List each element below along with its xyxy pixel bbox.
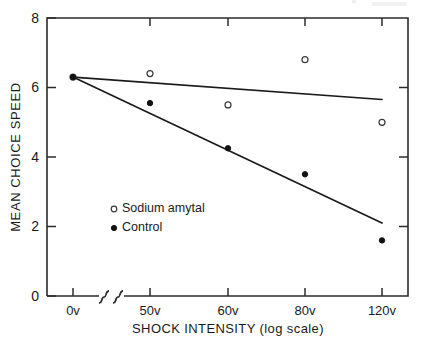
- data-point-sodium-amytal-80v: [302, 57, 308, 63]
- legend-label-control: Control: [122, 220, 162, 234]
- x-tick-label-60v: 60v: [218, 303, 239, 318]
- y-axis-title: MEAN CHOICE SPEED: [8, 82, 23, 232]
- chart-figure: 8 6 4 2 0 0v 50v 60v 80v 120v SHOCK INTE: [0, 0, 421, 348]
- legend-marker-sodium-amytal: [111, 206, 117, 212]
- data-point-control-120v: [379, 238, 384, 243]
- data-point-control-0v: [70, 74, 75, 79]
- x-tick-label-50v: 50v: [140, 303, 161, 318]
- scan-artifact: [372, 2, 406, 6]
- y-tick-label-8: 8: [31, 10, 39, 26]
- data-point-sodium-amytal-120v: [379, 119, 385, 125]
- y-tick-label-6: 6: [31, 79, 39, 95]
- y-tick-label-2: 2: [31, 218, 39, 234]
- x-tick-label-120v: 120v: [368, 303, 397, 318]
- x-tick-label-80v: 80v: [295, 303, 316, 318]
- x-axis-title: SHOCK INTENSITY (log scale): [132, 321, 324, 336]
- scatter-plot-svg: 8 6 4 2 0 0v 50v 60v 80v 120v SHOCK INTE: [0, 0, 421, 348]
- legend-label-sodium-amytal: Sodium amytal: [122, 201, 205, 215]
- scan-artifact-dot: [352, 0, 356, 3]
- data-point-sodium-amytal-50v: [147, 71, 153, 77]
- y-tick-label-0: 0: [31, 288, 39, 304]
- legend-marker-control: [111, 225, 116, 230]
- data-point-sodium-amytal-60v: [225, 102, 231, 108]
- x-tick-label-0v: 0v: [66, 303, 80, 318]
- data-point-control-60v: [225, 146, 230, 151]
- data-point-control-50v: [147, 100, 152, 105]
- y-tick-label-4: 4: [31, 149, 39, 165]
- data-point-control-80v: [302, 172, 307, 177]
